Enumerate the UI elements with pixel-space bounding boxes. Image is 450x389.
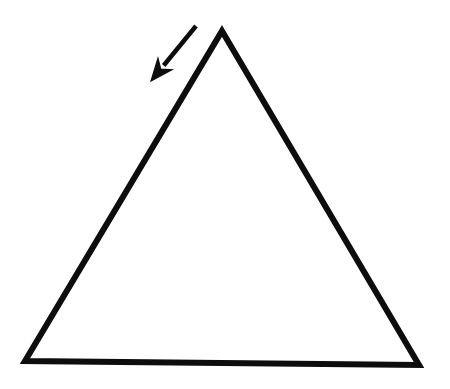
triangle-figure — [0, 0, 450, 389]
canvas-background — [0, 0, 450, 389]
drawing-canvas — [0, 0, 450, 389]
